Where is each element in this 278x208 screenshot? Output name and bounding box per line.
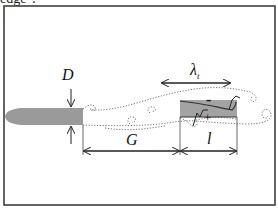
diagram <box>0 0 278 208</box>
label-l: l <box>207 130 211 148</box>
label-plus: + <box>204 110 211 126</box>
wake-vortices <box>83 88 271 130</box>
label-d: D <box>62 66 74 84</box>
label-g: G <box>126 131 138 149</box>
label-minus: - <box>206 91 211 109</box>
bluff-body <box>5 108 83 125</box>
label-lambda: λt <box>190 61 199 81</box>
